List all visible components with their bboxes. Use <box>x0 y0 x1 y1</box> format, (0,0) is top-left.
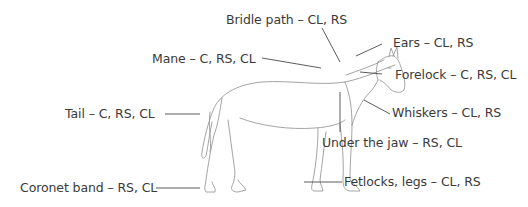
leader-whiskers <box>364 100 390 114</box>
label-tail: Tail – C, RS, CL <box>65 106 155 121</box>
label-fetlocks-legs: Fetlocks, legs – CL, RS <box>344 174 481 189</box>
label-whiskers: Whiskers – CL, RS <box>392 105 501 120</box>
horse-grooming-diagram: Bridle path – CL, RS Mane – C, RS, CL Ea… <box>0 0 528 207</box>
label-forelock: Forelock – C, RS, CL <box>395 67 516 82</box>
horse-outline <box>202 47 405 192</box>
leader-ears <box>356 44 382 56</box>
label-coronet-band: Coronet band – RS, CL <box>20 180 157 195</box>
leader-bridle-path <box>322 28 340 62</box>
leader-mane <box>262 58 321 68</box>
label-under-the-jaw: Under the jaw – RS, CL <box>322 135 462 150</box>
label-bridle-path: Bridle path – CL, RS <box>226 12 347 27</box>
label-ears: Ears – CL, RS <box>393 35 473 50</box>
label-mane: Mane – C, RS, CL <box>152 51 256 66</box>
